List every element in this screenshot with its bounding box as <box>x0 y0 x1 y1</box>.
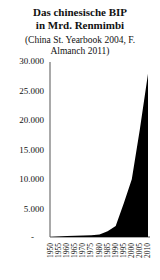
chart-plot <box>0 0 160 280</box>
x-tick-label: 2010 <box>144 243 152 258</box>
gdp-area <box>51 74 148 237</box>
